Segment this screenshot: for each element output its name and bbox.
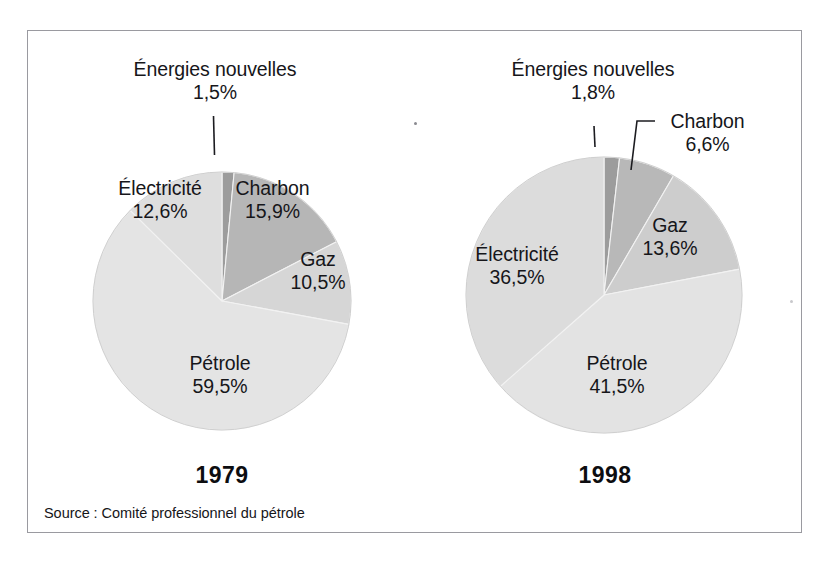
pie-label-electricite-1979-pct: 12,6% [105,200,215,223]
pie-label-gaz-1998: Gaz 13,6% [630,214,710,260]
pie-label-gaz-1998-name: Gaz [652,214,687,236]
pie-label-electricite-1979-name: Électricité [118,177,201,199]
pie-label-petrole-1998-pct: 41,5% [562,375,672,398]
figure-frame [27,30,802,533]
pie-label-petrole-1979-pct: 59,5% [165,375,275,398]
figure-root: Énergies nouvelles 1,5% Électricité 12,6… [0,0,822,569]
pie-label-charbon-1979-name: Charbon [235,177,309,199]
pie-label-gaz-1998-pct: 13,6% [630,237,710,260]
pie-label-charbon-1979: Charbon 15,9% [225,177,320,223]
pie-label-energies-1979-pct: 1,5% [120,81,310,104]
pie-label-petrole-1998-name: Pétrole [586,352,647,374]
chart-title-1998: 1998 [545,462,665,489]
pie-label-petrole-1979: Pétrole 59,5% [165,352,275,398]
scan-speck-2 [790,300,793,303]
pie-label-gaz-1979-pct: 10,5% [278,271,358,294]
pie-label-charbon-1998-name: Charbon [670,110,744,132]
pie-label-petrole-1998: Pétrole 41,5% [562,352,672,398]
pie-label-energies-1998: Énergies nouvelles 1,8% [498,58,688,104]
pie-label-electricite-1979: Électricité 12,6% [105,177,215,223]
pie-label-energies-1998-pct: 1,8% [498,81,688,104]
pie-label-gaz-1979: Gaz 10,5% [278,248,358,294]
source-note: Source : Comité professionnel du pétrole [44,505,305,521]
pie-label-gaz-1979-name: Gaz [300,248,335,270]
pie-label-charbon-1998-pct: 6,6% [660,133,755,156]
pie-label-energies-1998-name: Énergies nouvelles [512,58,675,80]
pie-label-electricite-1998-pct: 36,5% [462,266,572,289]
pie-label-charbon-1998: Charbon 6,6% [660,110,755,156]
pie-label-petrole-1979-name: Pétrole [189,352,250,374]
pie-label-electricite-1998: Électricité 36,5% [462,243,572,289]
pie-label-charbon-1979-pct: 15,9% [225,200,320,223]
pie-label-energies-1979: Énergies nouvelles 1,5% [120,58,310,104]
scan-speck [414,122,417,125]
pie-label-energies-1979-name: Énergies nouvelles [134,58,297,80]
chart-title-1979: 1979 [162,462,282,489]
pie-label-electricite-1998-name: Électricité [475,243,558,265]
